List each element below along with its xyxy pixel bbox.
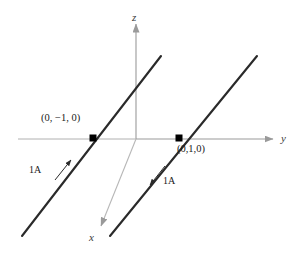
z-axis-label: z bbox=[132, 12, 136, 23]
left-current-label: 1A bbox=[29, 165, 41, 175]
left-wire bbox=[22, 56, 161, 236]
x-axis-label: x bbox=[89, 232, 94, 243]
x-axis-line bbox=[101, 139, 136, 226]
diagram-canvas bbox=[0, 0, 298, 253]
physics-diagram: z y x (0, −1, 0) (0,1,0) 1A 1A bbox=[0, 0, 298, 253]
left-point-label: (0, −1, 0) bbox=[41, 113, 80, 124]
left-point-marker bbox=[90, 135, 97, 142]
right-point-label: (0,1,0) bbox=[177, 144, 205, 155]
y-axis-label: y bbox=[281, 133, 286, 144]
right-current-label: 1A bbox=[163, 176, 175, 186]
right-point-marker bbox=[176, 135, 183, 142]
